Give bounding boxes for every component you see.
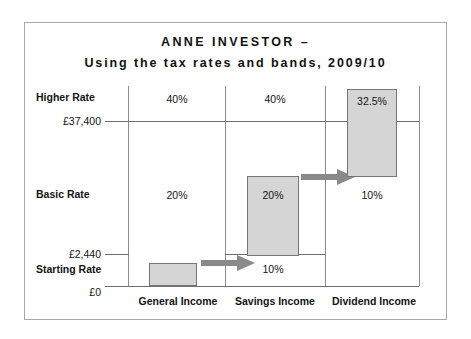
column-header-dividend-income: Dividend Income [327,295,421,307]
band-label-higher-rate: Higher Rate [36,91,95,103]
dividend-income-basic-rate-value: 10% [345,189,399,201]
savings-income-higher-rate-value: 40% [245,93,305,105]
axis-line-left [128,86,129,286]
band-label-basic-rate: Basic Rate [36,188,90,200]
chart-figure: ANNE INVESTOR – Using the tax rates and … [24,22,447,320]
band-label-starting-rate: Starting Rate [36,263,101,275]
general-income-bar [149,263,197,286]
savings-income-starting-rate-value: 10% [245,263,301,275]
gridline-0 [105,286,419,287]
general-income-higher-rate-value: 40% [147,93,207,105]
axis-label-37400: £37,400 [43,115,101,127]
dividend-income-bar-value: 32.5% [347,95,397,107]
column-header-general-income: General Income [133,295,223,307]
gridline-2440-tick [105,254,129,255]
column-divider-2 [325,86,326,286]
savings-income-bar [247,176,299,256]
plot-area: Higher Rate Basic Rate Starting Rate £37… [25,23,448,321]
axis-label-0: £0 [43,286,101,298]
column-header-savings-income: Savings Income [230,295,320,307]
savings-income-bar-value: 20% [247,189,299,201]
plot-right-edge [419,86,420,286]
axis-label-2440: £2,440 [43,248,101,260]
general-income-basic-rate-value: 20% [147,189,207,201]
